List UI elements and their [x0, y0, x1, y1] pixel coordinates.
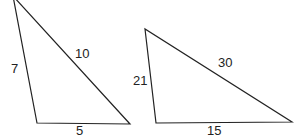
triangles-canvas	[0, 0, 294, 138]
left-triangle-base-label: 5	[76, 124, 83, 138]
right-triangle	[145, 29, 292, 123]
left-triangle-hypotenuse-label: 10	[75, 47, 89, 61]
left-triangle-left-side-label: 7	[11, 62, 18, 76]
right-triangle-left-side-label: 21	[133, 74, 147, 88]
right-triangle-hypotenuse-label: 30	[218, 56, 232, 70]
right-triangle-outline	[145, 29, 292, 123]
right-triangle-base-label: 15	[207, 124, 221, 138]
left-triangle-outline	[13, 0, 130, 124]
similar-triangles-figure: 7 10 5 21 30 15	[0, 0, 294, 138]
left-triangle	[13, 0, 130, 124]
